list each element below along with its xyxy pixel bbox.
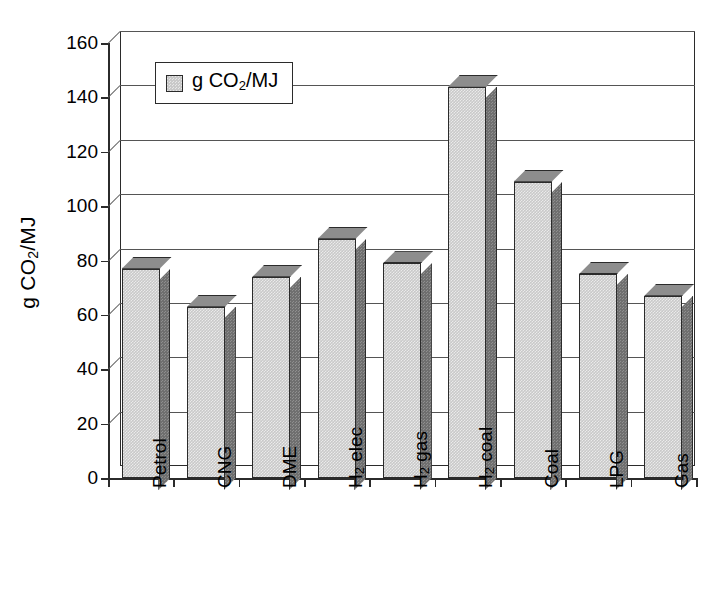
legend: g CO2/MJ: [155, 62, 293, 104]
plot-area: 020406080100120140160 PetrolCNGDMEH2 ele…: [0, 0, 725, 589]
x-label-prefix: CNG: [214, 446, 235, 488]
gridline-depth-edge: [108, 86, 121, 99]
x-tick-mark: [173, 478, 175, 487]
gridline: [120, 140, 695, 141]
x-label-sub: 2: [352, 467, 367, 474]
legend-label-suffix: /MJ: [246, 69, 278, 91]
x-label-prefix: LPG: [606, 450, 627, 488]
x-axis-label: Gas: [672, 368, 691, 488]
x-tick-mark: [696, 478, 698, 487]
gridline-depth-edge: [108, 357, 121, 370]
bar-chart: g CO2/MJ 020406080100120140160 PetrolCNG…: [0, 0, 725, 589]
y-tick-label: 80: [40, 251, 98, 270]
y-tick-mark: [101, 261, 108, 263]
x-label-prefix: Petrol: [149, 438, 170, 488]
x-tick-mark: [304, 478, 306, 487]
y-tick-mark: [101, 315, 108, 317]
y-tick-label: 60: [40, 305, 98, 324]
x-label-prefix: Gas: [671, 453, 692, 488]
x-axis-label: H2 elec: [346, 368, 369, 488]
legend-label-sub: 2: [239, 78, 246, 93]
x-axis-label: DME: [280, 368, 299, 488]
y-tick-label: 160: [40, 33, 98, 52]
y-tick-label: 100: [40, 196, 98, 215]
y-tick-mark: [101, 478, 108, 480]
legend-label-prefix: g CO: [192, 69, 239, 91]
gridline-depth-edge: [108, 249, 121, 262]
gridline-depth-edge: [108, 412, 121, 425]
y-tick-label: 20: [40, 414, 98, 433]
y-tick-label: 0: [40, 468, 98, 487]
x-label-sub: 2: [417, 467, 432, 474]
y-tick-label: 120: [40, 142, 98, 161]
x-tick-mark: [500, 478, 502, 487]
y-tick-label: 40: [40, 359, 98, 378]
x-tick-mark: [239, 478, 241, 487]
gridline-depth-edge: [108, 303, 121, 316]
x-tick-mark: [631, 478, 633, 487]
x-axis-label: Coal: [542, 368, 561, 488]
x-label-prefix: DME: [279, 446, 300, 488]
gridline: [120, 194, 695, 195]
x-label-suffix: gas: [410, 431, 431, 467]
y-tick-mark: [101, 152, 108, 154]
gridline-depth-edge: [108, 140, 121, 153]
gridline-depth-edge: [108, 31, 121, 44]
legend-label: g CO2/MJ: [192, 70, 278, 96]
x-label-suffix: elec: [345, 427, 366, 467]
x-axis-label: CNG: [215, 368, 234, 488]
x-label-prefix: H: [410, 474, 431, 488]
x-label-suffix: coal: [475, 427, 496, 467]
x-tick-mark: [565, 478, 567, 487]
x-label-sub: 2: [482, 467, 497, 474]
x-label-prefix: Coal: [541, 449, 562, 488]
x-tick-mark: [369, 478, 371, 487]
gridline: [120, 249, 695, 250]
x-tick-mark: [435, 478, 437, 487]
y-tick-mark: [101, 424, 108, 426]
y-tick-mark: [101, 97, 108, 99]
y-tick-mark: [101, 206, 108, 208]
y-tick-mark: [101, 43, 108, 45]
x-tick-mark: [108, 478, 110, 487]
y-tick-mark: [101, 369, 108, 371]
legend-swatch-icon: [166, 75, 183, 92]
gridline: [120, 31, 695, 32]
x-axis-label: LPG: [607, 368, 626, 488]
x-axis-label: Petrol: [150, 368, 169, 488]
gridline-depth-edge: [108, 194, 121, 207]
x-axis-label: H2 gas: [411, 368, 434, 488]
x-axis-label: H2 coal: [476, 368, 499, 488]
y-tick-label: 140: [40, 87, 98, 106]
x-label-prefix: H: [345, 474, 366, 488]
x-label-prefix: H: [475, 474, 496, 488]
